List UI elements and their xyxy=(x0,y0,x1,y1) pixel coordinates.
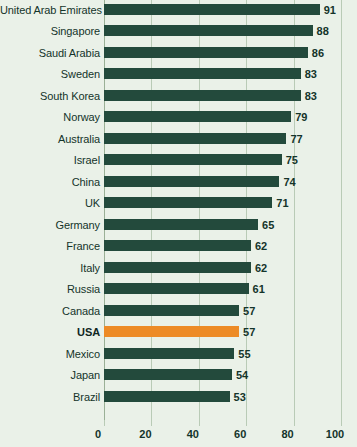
bar-value-label: 91 xyxy=(324,5,336,16)
category-label: USA xyxy=(0,327,100,338)
bar-row: Singapore88 xyxy=(0,25,357,47)
category-label: France xyxy=(0,241,100,252)
x-tick-mark-40 xyxy=(199,420,200,426)
x-tick-label: 60 xyxy=(234,429,246,440)
bar-row: Germany65 xyxy=(0,219,357,241)
category-label: South Korea xyxy=(0,91,100,102)
x-tick-mark-20 xyxy=(151,420,152,426)
category-label: UK xyxy=(0,198,100,209)
bar-value-label: 71 xyxy=(276,198,288,209)
bar-row: Saudi Arabia86 xyxy=(0,47,357,69)
bar-value-label: 62 xyxy=(255,263,267,274)
category-label: Israel xyxy=(0,155,100,166)
bar xyxy=(104,305,239,316)
bar-value-label: 54 xyxy=(236,370,248,381)
x-axis: 020406080100 xyxy=(0,420,357,447)
bar-value-label: 75 xyxy=(286,155,298,166)
x-tick-label: 80 xyxy=(281,429,293,440)
bar-row: Russia61 xyxy=(0,283,357,305)
bar-value-label: 79 xyxy=(295,112,307,123)
bar xyxy=(104,4,320,15)
x-tick-mark-100 xyxy=(341,420,342,426)
category-label: Norway xyxy=(0,112,100,123)
bar xyxy=(104,111,291,122)
bar-value-label: 83 xyxy=(305,69,317,80)
bar-row: Canada57 xyxy=(0,305,357,327)
bar-row: Sweden83 xyxy=(0,68,357,90)
category-label: China xyxy=(0,177,100,188)
bar xyxy=(104,176,279,187)
bar-row: Australia77 xyxy=(0,133,357,155)
bar xyxy=(104,197,272,208)
bar-value-label: 55 xyxy=(238,349,250,360)
bar-row: Brazil53 xyxy=(0,391,357,413)
bar xyxy=(104,219,258,230)
bar-row: UK71 xyxy=(0,197,357,219)
bar xyxy=(104,262,251,273)
bar-value-label: 74 xyxy=(283,177,295,188)
bar-value-label: 62 xyxy=(255,241,267,252)
bar-row: Japan54 xyxy=(0,369,357,391)
bar-value-label: 57 xyxy=(243,306,255,317)
category-label: Brazil xyxy=(0,392,100,403)
bar-row: USA57 xyxy=(0,326,357,348)
bar-row: Israel75 xyxy=(0,154,357,176)
bar-value-label: 57 xyxy=(243,327,255,338)
bar xyxy=(104,90,301,101)
bar-row: Norway79 xyxy=(0,111,357,133)
bar-value-label: 88 xyxy=(317,26,329,37)
bar xyxy=(104,25,313,36)
x-tick-label: 0 xyxy=(95,429,101,440)
bar xyxy=(104,369,232,380)
bar xyxy=(104,47,308,58)
category-label: United Arab Emirates xyxy=(0,5,100,16)
category-label: Saudi Arabia xyxy=(0,48,100,59)
category-label: Sweden xyxy=(0,69,100,80)
bar-value-label: 53 xyxy=(234,392,246,403)
bar-row: South Korea83 xyxy=(0,90,357,112)
category-label: Australia xyxy=(0,134,100,145)
x-tick-mark-0 xyxy=(104,420,105,426)
bar xyxy=(104,391,230,402)
bar-chart: United Arab Emirates91Singapore88Saudi A… xyxy=(0,0,357,447)
bar xyxy=(104,283,249,294)
category-label: Germany xyxy=(0,220,100,231)
x-tick-label: 40 xyxy=(187,429,199,440)
category-label: Japan xyxy=(0,370,100,381)
bar xyxy=(104,154,282,165)
x-tick-mark-60 xyxy=(246,420,247,426)
bar xyxy=(104,68,301,79)
bar xyxy=(104,240,251,251)
bar-value-label: 65 xyxy=(262,220,274,231)
bar xyxy=(104,133,286,144)
bar-value-label: 61 xyxy=(253,284,265,295)
bar-value-label: 77 xyxy=(290,134,302,145)
bar xyxy=(104,348,234,359)
category-label: Italy xyxy=(0,263,100,274)
bar-row: United Arab Emirates91 xyxy=(0,4,357,26)
bar-highlight xyxy=(104,326,239,337)
x-tick-label: 100 xyxy=(326,429,344,440)
category-label: Canada xyxy=(0,306,100,317)
bar-row: France62 xyxy=(0,240,357,262)
bar-row: Italy62 xyxy=(0,262,357,284)
category-label: Russia xyxy=(0,284,100,295)
x-tick-label: 20 xyxy=(139,429,151,440)
category-label: Singapore xyxy=(0,26,100,37)
bar-value-label: 83 xyxy=(305,91,317,102)
bar-row: Mexico55 xyxy=(0,348,357,370)
bar-value-label: 86 xyxy=(312,48,324,59)
x-tick-mark-80 xyxy=(294,420,295,426)
category-label: Mexico xyxy=(0,349,100,360)
bar-row: China74 xyxy=(0,176,357,198)
